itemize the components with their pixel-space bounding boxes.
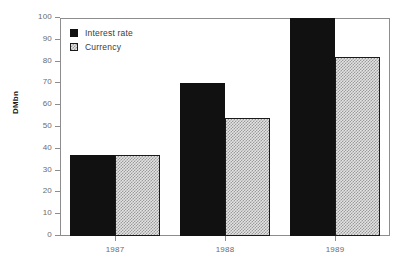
y-tick-label: 20 [43, 186, 52, 195]
y-tick-label: 40 [43, 143, 52, 152]
y-tick-label: 30 [43, 165, 52, 174]
legend-item: Currency [70, 40, 133, 54]
bar-1989-interest-rate [290, 18, 335, 236]
y-tick-mark [55, 17, 60, 18]
y-axis-title: DMbn [11, 73, 20, 133]
y-tick-label: 70 [43, 77, 52, 86]
x-tick-mark [335, 236, 336, 241]
x-tick-mark [115, 236, 116, 241]
bar-1989-currency [335, 57, 380, 236]
legend-label-currency: Currency [85, 42, 121, 52]
y-tick-mark [55, 61, 60, 62]
y-tick-mark [55, 82, 60, 83]
y-tick-mark [55, 104, 60, 105]
x-tick-label: 1988 [205, 245, 245, 254]
y-tick-mark [55, 213, 60, 214]
y-tick-mark [55, 39, 60, 40]
y-tick-mark [55, 235, 60, 236]
legend-swatch-currency [70, 43, 78, 51]
y-tick-label: 60 [43, 99, 52, 108]
x-tick-mark [225, 236, 226, 241]
x-tick-label: 1989 [315, 245, 355, 254]
y-tick-label: 100 [38, 12, 52, 21]
bar-1988-currency [225, 118, 270, 236]
legend-label-interest-rate: Interest rate [85, 28, 133, 38]
y-tick-mark [55, 170, 60, 171]
y-tick-label: 0 [47, 230, 52, 239]
bar-1988-interest-rate [180, 83, 225, 236]
y-tick-mark [55, 148, 60, 149]
legend-item: Interest rate [70, 26, 133, 40]
legend: Interest rate Currency [70, 26, 133, 54]
bar-chart: DMbn 0102030405060708090100 198719881989… [0, 0, 405, 271]
x-tick-label: 1987 [95, 245, 135, 254]
y-tick-mark [55, 126, 60, 127]
y-tick-label: 50 [43, 121, 52, 130]
legend-swatch-interest-rate [70, 29, 78, 37]
y-tick-label: 10 [43, 208, 52, 217]
bar-1987-currency [115, 155, 160, 236]
y-tick-label: 90 [43, 34, 52, 43]
bar-1987-interest-rate [70, 155, 115, 236]
y-tick-mark [55, 191, 60, 192]
y-tick-label: 80 [43, 56, 52, 65]
